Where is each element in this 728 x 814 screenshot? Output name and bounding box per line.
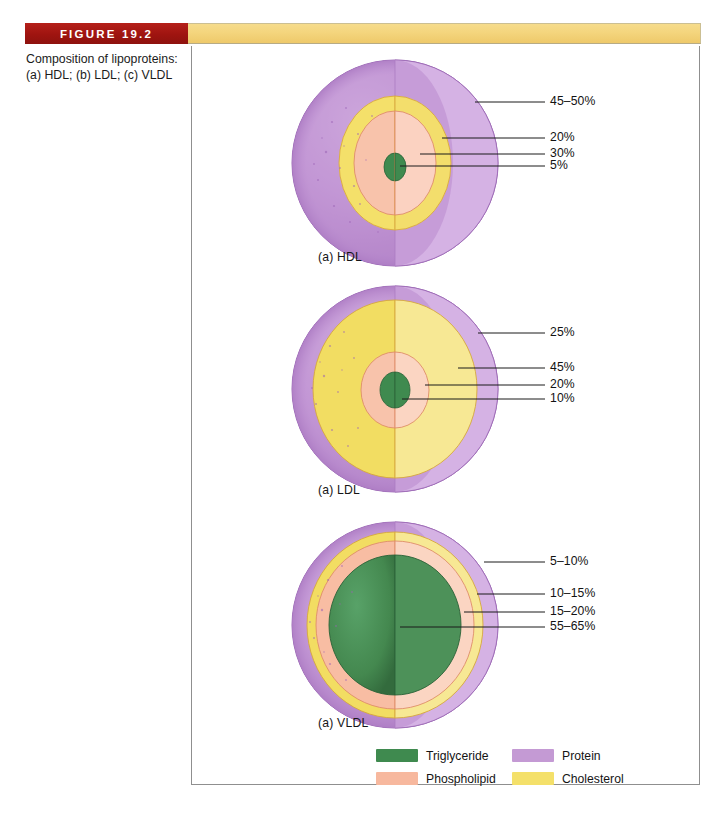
sphere-vldl [288,518,502,732]
lipoprotein-panel-hdl: 45–50% 20% 30% 5% (a) HDL [192,52,701,280]
legend-label-phospholipid: Phospholipid [426,772,496,786]
lipoprotein-panel-ldl: 25% 45% 20% 10% (a) LDL [192,280,701,516]
legend-item-protein: Protein [512,746,640,765]
figure-banner: FIGURE 19.2 [25,23,701,44]
sphere-ldl-svg [288,282,502,496]
figure-number-tag: FIGURE 19.2 [25,23,188,44]
pct-label-ldl-cholesterol: 45% [550,360,575,374]
lipoprotein-panel-vldl: 5–10% 10–15% 15–20% 55–65% (a) VLDL [192,516,701,748]
pct-label-vldl-triglyceride: 55–65% [550,619,595,633]
legend-label-triglyceride: Triglyceride [426,749,489,763]
pct-label-vldl-protein: 5–10% [550,554,588,568]
pct-label-hdl-triglyceride: 5% [550,158,568,172]
legend-item-cholesterol: Cholesterol [512,769,640,788]
sphere-hdl [288,56,502,270]
figure-number-label: FIGURE 19.2 [60,28,153,40]
legend-swatch-triglyceride [376,749,418,762]
pct-label-ldl-protein: 25% [550,325,575,339]
pct-label-ldl-phospholipid: 20% [550,377,575,391]
caption-hdl: (a) HDL [318,250,362,264]
caption-ldl: (a) LDL [318,483,360,497]
figure-banner-bar [188,23,701,44]
legend-swatch-cholesterol [512,772,554,785]
legend: Triglyceride Protein Phospholipid Choles… [376,746,686,788]
pct-label-vldl-cholesterol: 10–15% [550,586,595,600]
pct-label-hdl-cholesterol: 20% [550,130,575,144]
pct-label-hdl-protein: 45–50% [550,94,595,108]
legend-label-protein: Protein [562,749,601,763]
pct-label-vldl-phospholipid: 15–20% [550,604,595,618]
legend-item-triglyceride: Triglyceride [376,746,504,765]
legend-label-cholesterol: Cholesterol [562,772,624,786]
sphere-vldl-svg [288,518,502,732]
legend-swatch-protein [512,749,554,762]
figure-panel: 45–50% 20% 30% 5% (a) HDL [191,46,700,785]
sphere-hdl-svg [288,56,502,270]
legend-swatch-phospholipid [376,772,418,785]
sphere-ldl [288,282,502,496]
caption-vldl: (a) VLDL [318,716,368,730]
pct-label-ldl-triglyceride: 10% [550,391,575,405]
legend-item-phospholipid: Phospholipid [376,769,504,788]
figure-caption: Composition of lipoproteins: (a) HDL; (b… [26,52,184,83]
